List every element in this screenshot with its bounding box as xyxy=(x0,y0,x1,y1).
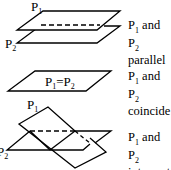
caption-parallel: P1 and P2 parallel xyxy=(128,19,171,67)
caption-intersect: P1 and P2 intersect xyxy=(128,131,171,170)
plane-label-p2-intersect: P2 xyxy=(0,145,8,158)
plane-label-p1-intersect: P1 xyxy=(27,98,38,111)
caption-coincide: P1 and P2 coincide xyxy=(128,70,171,118)
plane-label-p1-equals-p2: P1=P2 xyxy=(45,75,75,88)
plane-label-p2: P2 xyxy=(5,37,16,50)
plane-p1-intersect xyxy=(19,107,106,168)
plane-p2-intersect xyxy=(7,131,111,150)
plane-label-p1: P1 xyxy=(31,0,42,13)
